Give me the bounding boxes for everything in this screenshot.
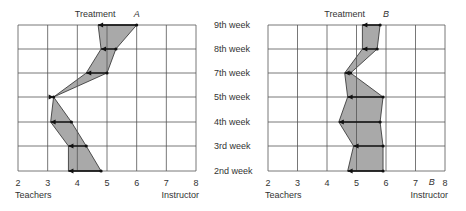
x-tick-label: 2 xyxy=(265,178,270,188)
x-label-right: Instructor xyxy=(410,190,448,200)
grid xyxy=(18,25,196,171)
x-label-right: Instructor xyxy=(161,190,199,200)
panel-mark: B xyxy=(429,177,435,187)
range-band xyxy=(339,25,383,171)
x-tick-label: 6 xyxy=(134,178,139,188)
panel-label: B xyxy=(383,9,389,19)
x-tick-label: 3 xyxy=(295,178,300,188)
chart-title: Treatment xyxy=(324,9,365,19)
y-category-label: 9th week xyxy=(214,20,251,30)
y-category-label: 7th week xyxy=(214,68,251,78)
chart-title: Treatment xyxy=(75,9,116,19)
chart-canvas: 2345678TreatmentATeachersInstructor23456… xyxy=(0,0,466,211)
y-category-label: 8th week xyxy=(214,44,251,54)
panel-label: A xyxy=(133,9,140,19)
y-category-label: 2nd week xyxy=(214,166,253,176)
x-tick-label: 4 xyxy=(75,178,80,188)
x-tick-label: 8 xyxy=(193,178,198,188)
x-label-left: Teachers xyxy=(265,190,302,200)
panel-a: 2345678TreatmentATeachersInstructor xyxy=(15,9,199,200)
x-tick-label: 7 xyxy=(413,178,418,188)
x-tick-label: 3 xyxy=(45,178,50,188)
range-band xyxy=(51,25,137,171)
x-tick-label: 5 xyxy=(104,178,109,188)
x-tick-label: 6 xyxy=(383,178,388,188)
panel-b: 2345678BTreatmentBTeachersInstructor9th … xyxy=(214,9,448,200)
x-tick-label: 7 xyxy=(164,178,169,188)
x-tick-label: 5 xyxy=(354,178,359,188)
y-category-label: 4th week xyxy=(214,117,251,127)
grid xyxy=(268,25,445,171)
y-category-label: 3rd week xyxy=(214,141,251,151)
y-category-label: 5th week xyxy=(214,92,251,102)
x-label-left: Teachers xyxy=(15,190,52,200)
x-tick-label: 8 xyxy=(442,178,447,188)
x-tick-label: 4 xyxy=(324,178,329,188)
x-tick-label: 2 xyxy=(15,178,20,188)
